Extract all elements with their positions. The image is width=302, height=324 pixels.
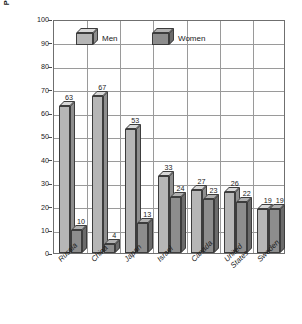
- gridline-horizontal: [54, 115, 284, 116]
- y-axis-tick-mark: [48, 20, 52, 21]
- y-axis-tick-mark: [48, 207, 52, 208]
- gridline-vertical: [220, 21, 221, 253]
- y-axis-tick-mark: [48, 43, 52, 44]
- y-axis-tick-mark: [48, 114, 52, 115]
- y-axis-tick-marks: [0, 20, 60, 254]
- legend-label-women: Women: [178, 34, 205, 43]
- y-axis-tick-mark: [48, 90, 52, 91]
- legend-swatch-men-icon: [76, 33, 93, 45]
- gridline-horizontal: [54, 138, 284, 139]
- gridline-vertical: [87, 21, 88, 253]
- bar-japan-men: [125, 129, 136, 253]
- y-axis-tick-mark: [48, 67, 52, 68]
- y-axis-tick-mark: [48, 184, 52, 185]
- gridline-vertical: [153, 21, 154, 253]
- bar-israel-men: [158, 176, 169, 253]
- y-axis-tick-mark: [48, 137, 52, 138]
- gridline-horizontal: [54, 68, 284, 69]
- bar-russia-men: [59, 106, 70, 253]
- gridline-vertical: [187, 21, 188, 253]
- gridline-horizontal: [54, 161, 284, 162]
- legend-swatch-women-icon: [152, 33, 169, 45]
- gridline-vertical: [253, 21, 254, 253]
- y-axis-tick-mark: [48, 231, 52, 232]
- bar-chart-figure: Percentage of Men and Women, Ages Fiftee…: [0, 0, 302, 324]
- bar-value-label: 19: [267, 197, 293, 205]
- y-axis-tick-mark: [48, 160, 52, 161]
- bar-value-label: 19: [255, 197, 281, 205]
- gridline-horizontal: [54, 91, 284, 92]
- y-axis-tick-mark: [48, 254, 52, 255]
- legend-label-men: Men: [102, 34, 118, 43]
- gridline-vertical: [120, 21, 121, 253]
